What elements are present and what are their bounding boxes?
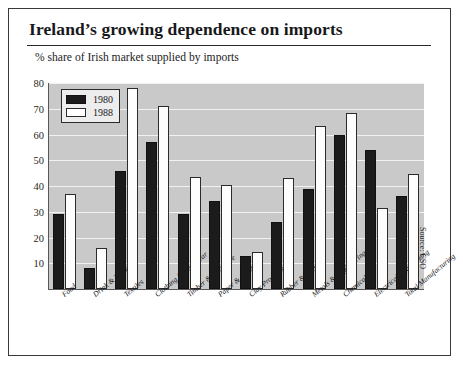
y-axis-tick-label: 30 bbox=[34, 206, 45, 217]
bar-1988 bbox=[283, 178, 294, 289]
bar-1988 bbox=[127, 88, 138, 289]
bar-1980 bbox=[209, 201, 220, 289]
bar-group: Paper & Print bbox=[205, 83, 236, 289]
bar-group: Electrical Engineering bbox=[362, 83, 393, 289]
chart-legend: 1980 1988 bbox=[61, 89, 120, 123]
bar-1980 bbox=[84, 268, 95, 289]
bar-1988 bbox=[158, 106, 169, 289]
bar-1980 bbox=[240, 256, 251, 289]
y-axis-tick-label: 20 bbox=[34, 232, 45, 243]
legend-item: 1988 bbox=[66, 106, 113, 119]
bar-1980 bbox=[396, 196, 407, 289]
empty-square-swatch-1980-icon bbox=[66, 95, 86, 104]
legend-item-label: 1988 bbox=[93, 107, 113, 118]
bar-1988 bbox=[65, 194, 76, 289]
bar-group: Rubber & Plastics bbox=[268, 83, 299, 289]
bar-1988 bbox=[346, 113, 357, 289]
bar-1980 bbox=[365, 150, 376, 289]
y-axis-tick-label: 10 bbox=[34, 258, 45, 269]
bar-group: Timber & Furniture bbox=[174, 83, 205, 289]
bar-1988 bbox=[190, 177, 201, 289]
bar-1980 bbox=[146, 142, 157, 289]
legend-item: 1980 bbox=[66, 93, 113, 106]
y-axis-tick-label: 40 bbox=[34, 181, 45, 192]
bar-group: Clothing & Footwear bbox=[143, 83, 174, 289]
y-axis-tick-label: 50 bbox=[34, 155, 45, 166]
bar-group: Metals & Engineering bbox=[299, 83, 330, 289]
y-axis-tick-label: 70 bbox=[34, 103, 45, 114]
bar-1988 bbox=[315, 126, 326, 290]
bar-1980 bbox=[334, 135, 345, 290]
bar-1980 bbox=[178, 214, 189, 289]
bar-1988 bbox=[221, 185, 232, 289]
bar-1980 bbox=[303, 189, 314, 289]
bar-1980 bbox=[53, 214, 64, 289]
y-axis-tick-label: 60 bbox=[34, 129, 45, 140]
plot-area: 1020304050607080 FoodDrink & TobaccoText… bbox=[48, 83, 424, 290]
bar-1980 bbox=[271, 222, 282, 289]
empty-square-swatch-1988-icon bbox=[66, 108, 86, 117]
y-axis-tick-label: 80 bbox=[34, 78, 45, 89]
bar-group: Chemicals bbox=[330, 83, 361, 289]
bar-group: Clay Products bbox=[237, 83, 268, 289]
bar-1988 bbox=[377, 208, 388, 289]
plot-wrapper: 1020304050607080 FoodDrink & TobaccoText… bbox=[9, 9, 452, 357]
chart-card: Ireland’s growing dependence on imports … bbox=[8, 8, 451, 356]
source-note: Source: CSO bbox=[418, 227, 427, 269]
bar-1980 bbox=[115, 171, 126, 289]
legend-item-label: 1980 bbox=[93, 94, 113, 105]
